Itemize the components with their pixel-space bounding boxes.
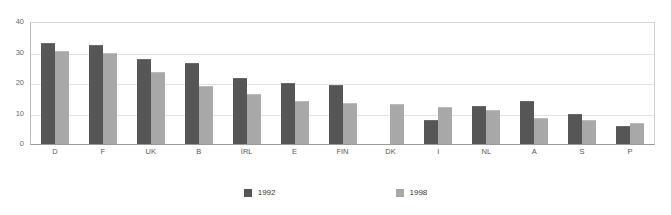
bar-1998-DK bbox=[390, 104, 404, 144]
x-axis: DFUKBIRLEFINDKINLASP bbox=[31, 148, 654, 164]
y-tick-label: 40 bbox=[16, 18, 24, 26]
bar-1992-I bbox=[424, 120, 438, 144]
chart-legend: 1992 1998 bbox=[0, 186, 671, 200]
bar-1992-A bbox=[520, 101, 534, 144]
bar-1998-D bbox=[55, 51, 69, 144]
bar-group bbox=[89, 22, 117, 144]
y-tick-label: 30 bbox=[16, 49, 24, 57]
x-tick-label: E bbox=[292, 148, 297, 156]
legend-swatch-1992-icon bbox=[244, 189, 252, 197]
bar-group bbox=[472, 22, 500, 144]
bar-group bbox=[233, 22, 261, 144]
x-tick-label: FIN bbox=[336, 148, 348, 156]
bar-1992-S bbox=[568, 114, 582, 145]
legend-swatch-1998-icon bbox=[396, 189, 404, 197]
bar-1998-I bbox=[438, 107, 452, 144]
bar-group bbox=[568, 22, 596, 144]
bar-1998-B bbox=[199, 86, 213, 144]
x-tick-label: UK bbox=[146, 148, 156, 156]
x-tick-label: I bbox=[437, 148, 439, 156]
x-tick-label: A bbox=[532, 148, 537, 156]
bar-1992-FIN bbox=[329, 85, 343, 144]
y-tick-label: 10 bbox=[16, 110, 24, 118]
legend-label-1998: 1998 bbox=[410, 189, 428, 197]
bar-1992-IRL bbox=[233, 78, 247, 144]
x-tick-label: B bbox=[196, 148, 201, 156]
x-tick-label: P bbox=[628, 148, 633, 156]
bar-1998-FIN bbox=[343, 103, 357, 144]
y-axis: 010203040 bbox=[0, 0, 28, 215]
bar-1998-NL bbox=[486, 110, 500, 144]
bar-group bbox=[376, 22, 404, 144]
bar-group bbox=[137, 22, 165, 144]
legend-entry-1998[interactable]: 1998 bbox=[396, 189, 428, 197]
bar-group bbox=[281, 22, 309, 144]
bar-1998-S bbox=[582, 120, 596, 144]
x-tick-label: IRL bbox=[241, 148, 253, 156]
x-tick-label: DK bbox=[385, 148, 395, 156]
bar-1992-NL bbox=[472, 106, 486, 144]
legend-label-1992: 1992 bbox=[258, 189, 276, 197]
legend-entry-1992[interactable]: 1992 bbox=[244, 189, 276, 197]
bar-group bbox=[41, 22, 69, 144]
bar-1998-UK bbox=[151, 72, 165, 144]
bar-group bbox=[185, 22, 213, 144]
bar-group bbox=[520, 22, 548, 144]
bar-group bbox=[424, 22, 452, 144]
y-tick-label: 20 bbox=[16, 79, 24, 87]
bar-1992-E bbox=[281, 83, 295, 144]
bar-group bbox=[616, 22, 644, 144]
bar-1998-E bbox=[295, 101, 309, 144]
bar-1992-P bbox=[616, 126, 630, 144]
bar-1998-F bbox=[103, 53, 117, 145]
bar-1992-D bbox=[41, 43, 55, 144]
bar-1992-B bbox=[185, 63, 199, 144]
x-tick-label: S bbox=[580, 148, 585, 156]
bar-1998-P bbox=[630, 123, 644, 144]
bar-chart: 010203040 DFUKBIRLEFINDKINLASP 1992 1998 bbox=[0, 0, 671, 215]
x-tick-label: NL bbox=[481, 148, 491, 156]
bar-group bbox=[329, 22, 357, 144]
bar-1992-UK bbox=[137, 59, 151, 144]
bar-1998-IRL bbox=[247, 94, 261, 144]
y-tick-label: 0 bbox=[20, 140, 24, 148]
bars-layer bbox=[31, 22, 654, 144]
x-tick-label: F bbox=[101, 148, 106, 156]
x-tick-label: D bbox=[52, 148, 57, 156]
bar-1992-F bbox=[89, 45, 103, 144]
bar-1998-A bbox=[534, 118, 548, 144]
